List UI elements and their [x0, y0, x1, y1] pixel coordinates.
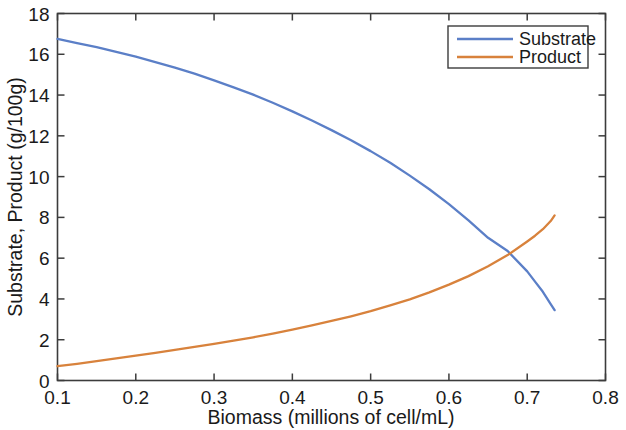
chart-legend[interactable]: Substrate Product [448, 26, 596, 68]
chart-figure: 0.10.20.30.40.50.60.70.8 024681012141618… [0, 0, 626, 430]
x-tick-label: 0.3 [201, 387, 227, 408]
y-tick-label: 14 [28, 85, 50, 106]
series-lines [58, 39, 555, 366]
y-tick-label: 16 [28, 44, 49, 65]
x-tick-label: 0.4 [279, 387, 306, 408]
y-tick-label: 4 [39, 289, 50, 310]
x-axis-ticks: 0.10.20.30.40.50.60.70.8 [44, 14, 618, 408]
plot-svg: 0.10.20.30.40.50.60.70.8 024681012141618… [0, 0, 626, 430]
x-tick-label: 0.2 [123, 387, 149, 408]
y-tick-label: 0 [39, 371, 50, 392]
y-tick-label: 6 [39, 248, 50, 269]
x-tick-label: 0.8 [592, 387, 618, 408]
y-tick-label: 18 [28, 4, 49, 25]
x-tick-label: 0.7 [514, 387, 540, 408]
x-tick-label: 0.6 [436, 387, 462, 408]
x-tick-label: 0.5 [357, 387, 383, 408]
series-line-product [58, 215, 555, 366]
y-tick-label: 10 [28, 167, 49, 188]
legend-label-substrate: Substrate [519, 29, 596, 49]
y-axis-title: Substrate, Product (g/100g) [4, 77, 26, 317]
y-tick-label: 12 [28, 126, 49, 147]
x-axis-title: Biomass (millions of cell/mL) [207, 406, 454, 428]
y-tick-label: 8 [39, 207, 50, 228]
y-tick-label: 2 [39, 330, 50, 351]
legend-label-product: Product [519, 47, 581, 67]
